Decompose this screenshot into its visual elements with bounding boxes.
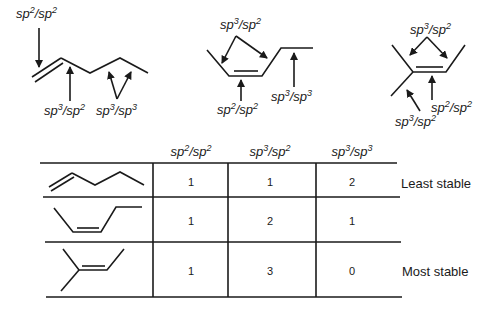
molecule-1-pentene <box>32 58 148 82</box>
stability-note-least: Least stable <box>401 176 471 191</box>
label-sp3-sp2: sp3/sp2 <box>220 16 261 32</box>
table-molecule-3 <box>61 249 124 291</box>
column-header-sp3-sp2: sp3/sp2 <box>249 143 290 159</box>
table-cell: 2 <box>349 176 355 188</box>
arrow <box>410 37 427 55</box>
table-cell: 1 <box>188 215 194 227</box>
label-sp3-sp3: sp3/sp3 <box>271 88 312 104</box>
table-cell: 3 <box>267 265 273 277</box>
molecule-2-methyl-2-butene <box>391 45 465 96</box>
table-cell: 2 <box>267 215 273 227</box>
label-sp3-sp2: sp3/sp2 <box>395 113 436 129</box>
table-cell: 1 <box>188 176 194 188</box>
table-cell: 1 <box>188 265 194 277</box>
label-sp2-sp2: sp2/sp2 <box>431 99 472 115</box>
table-grid <box>40 163 402 297</box>
arrow <box>236 36 267 58</box>
column-header-sp2-sp2: sp2/sp2 <box>170 143 211 159</box>
table-cell: 1 <box>349 215 355 227</box>
arrow <box>117 72 131 99</box>
table-molecule-2 <box>54 207 142 232</box>
arrow <box>222 36 236 63</box>
column-header-sp3-sp3: sp3/sp3 <box>331 143 372 159</box>
label-sp3-sp2: sp3/sp2 <box>44 102 85 118</box>
table-cell: 0 <box>349 265 355 277</box>
arrow <box>109 72 117 99</box>
label-sp2-sp2: sp2/sp2 <box>217 101 258 117</box>
label-sp3-sp3: sp3/sp3 <box>96 102 137 118</box>
label-sp2-sp2: sp2/sp2 <box>16 5 57 21</box>
table-molecule-1 <box>49 172 144 191</box>
arrow <box>407 90 420 111</box>
table-cell: 1 <box>267 176 273 188</box>
stability-note-most: Most stable <box>402 264 468 279</box>
label-sp3-sp2: sp3/sp2 <box>410 21 451 37</box>
arrow <box>427 37 447 58</box>
